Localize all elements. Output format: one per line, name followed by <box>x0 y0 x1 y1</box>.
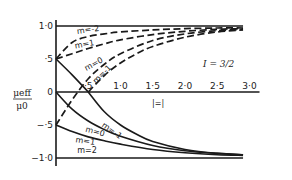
curve-label: m=-2 <box>76 24 100 36</box>
x-tick-label: 2·0 <box>178 81 193 91</box>
y-axis-label: μeff μ0 <box>13 88 32 111</box>
series-line-m-1 <box>88 92 243 155</box>
chart: 1·0·50−·5−1·0 ·51·01·52·02·53·0 m=-2m=1m… <box>0 0 292 180</box>
y-label-numerator: μeff <box>13 88 31 98</box>
curve-label: m=1 <box>74 38 95 50</box>
curve-label: m=1 <box>75 135 96 147</box>
y-tick-label: ·5 <box>44 54 53 64</box>
y-tick-label: −·5 <box>37 120 53 130</box>
x-tick-label: 1·5 <box>146 81 160 91</box>
x-tick-label: 2·5 <box>210 81 224 91</box>
annotation: I = 3/2 <box>202 59 235 69</box>
x-marker-label: |=| <box>152 99 164 108</box>
curve-label: m=2 <box>77 146 97 155</box>
y-tick-label: 0 <box>47 87 53 97</box>
y-tick-label: 1·0 <box>39 21 54 31</box>
x-ticks: ·51·01·52·02·53·0 <box>84 81 257 91</box>
x-tick-label: 1·0 <box>113 81 128 91</box>
y-ticks: 1·0·50−·5−1·0 <box>31 21 53 163</box>
y-label-denominator: μ0 <box>16 101 28 111</box>
x-tick-label: 3·0 <box>242 81 257 91</box>
y-tick-label: −1·0 <box>31 153 53 163</box>
